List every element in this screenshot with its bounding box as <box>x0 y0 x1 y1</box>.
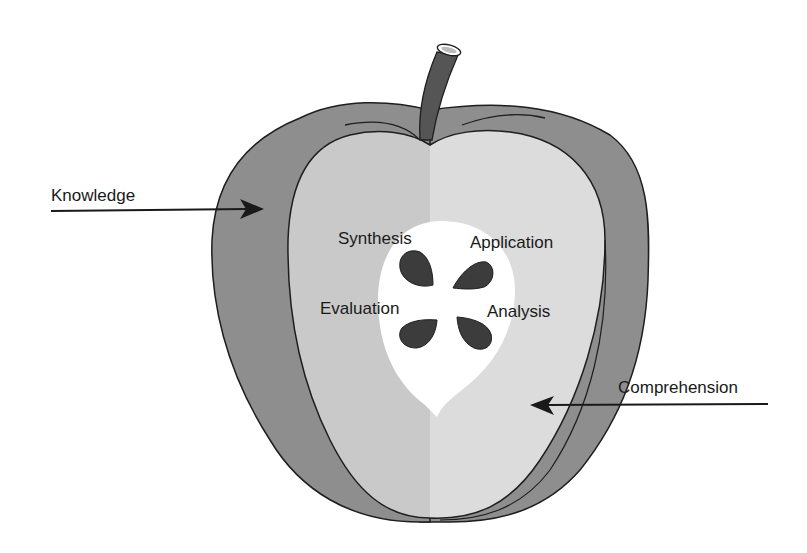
label-synthesis: Synthesis <box>338 230 412 247</box>
apple-illustration <box>0 0 807 553</box>
label-comprehension: Comprehension <box>618 379 738 396</box>
apple-diagram: Knowledge Comprehension Synthesis Applic… <box>0 0 807 553</box>
comprehension-arrow-line <box>546 404 768 405</box>
label-evaluation: Evaluation <box>320 300 399 317</box>
label-knowledge: Knowledge <box>51 187 135 204</box>
label-application: Application <box>470 234 553 251</box>
label-analysis: Analysis <box>487 303 550 320</box>
